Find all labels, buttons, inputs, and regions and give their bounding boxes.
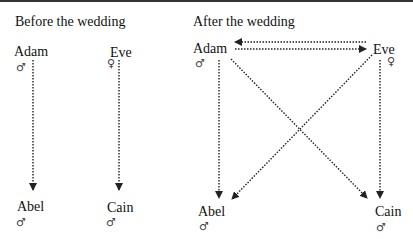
edge-adam-cain	[231, 59, 367, 198]
panel-title-before: Before the wedding	[15, 14, 125, 30]
male-symbol-icon: ♂	[376, 222, 386, 233]
male-symbol-icon: ♂	[199, 221, 209, 232]
male-symbol-icon: ♂	[195, 58, 205, 69]
node-adam-before: Adam	[14, 45, 48, 59]
node-cain-before: Cain	[107, 201, 133, 215]
node-cain-after: Cain	[375, 205, 401, 219]
male-symbol-icon: ♂	[16, 62, 26, 73]
male-symbol-icon: ♂	[16, 217, 26, 228]
node-abel-before: Abel	[17, 200, 44, 214]
female-symbol-icon: ♀	[387, 56, 395, 67]
male-symbol-icon: ♂	[106, 217, 116, 228]
node-abel-after: Abel	[198, 205, 225, 219]
node-adam-after: Adam	[193, 42, 227, 56]
female-symbol-icon: ♀	[107, 58, 115, 69]
panel-title-after: After the wedding	[193, 14, 295, 30]
edge-eve-abel	[232, 55, 372, 199]
